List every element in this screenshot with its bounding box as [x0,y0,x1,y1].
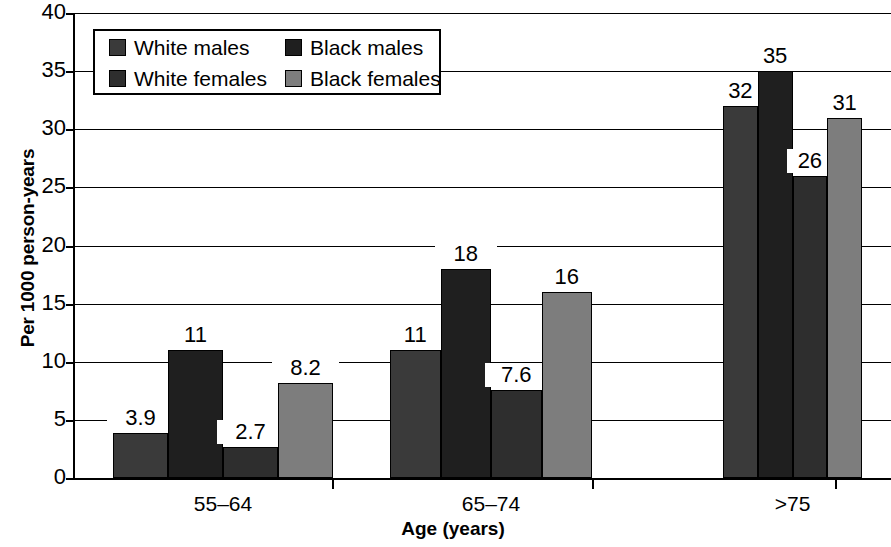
bar-value-label: 7.6 [485,363,548,387]
x-tick-mark-0 [332,478,334,489]
bar-value-label: 31 [821,91,868,115]
bar-value-label: 3.9 [107,406,174,430]
bar-value-label: 16 [536,265,599,289]
bar-6574-white-males [390,350,441,478]
x-axis-title: Age (years) [73,518,833,540]
x-tick-mark-1 [592,478,594,489]
bar-value-label: 11 [384,323,447,347]
bar-value-label: 26 [787,149,834,173]
bar-5564-white-females [223,447,278,478]
bar-5564-black-females [278,383,333,478]
legend-item-black-females: Black females [285,63,441,94]
bar-75-black-females [827,118,862,478]
legend-label-black-males: Black males [310,37,423,58]
x-tick-label-0: 55–64 [153,492,293,516]
bar-5564-white-males [113,433,168,478]
legend-swatch-white-males [109,39,126,56]
bar-value-label: 11 [162,323,229,347]
bar-6574-black-females [542,292,593,478]
bar-value-label: 18 [435,242,498,266]
bar-value-label: 2.7 [217,420,284,444]
x-axis-line [73,478,891,480]
bar-75-black-males [758,71,793,478]
x-tick-mark-2 [835,478,837,489]
y-tick-label-0: 0 [8,466,66,488]
x-tick-label-2: >75 [723,492,863,516]
x-tick-label-1: 65–74 [421,492,561,516]
legend-label-white-males: White males [134,37,250,58]
bar-5564-black-males [168,350,223,478]
legend-swatch-white-females [109,70,126,87]
legend-label-black-females: Black females [310,68,441,89]
bar-6574-white-females [491,390,542,478]
bar-value-label: 32 [717,79,764,103]
legend-label-white-females: White females [134,68,267,89]
y-axis-title: Per 1000 person-years [17,68,39,428]
legend-row-1: White males Black males [95,32,439,63]
legend-item-white-males: White males [109,32,250,63]
legend-item-white-females: White females [109,63,267,94]
bar-75-white-females [793,176,828,478]
bar-6574-black-males [441,269,492,478]
legend-swatch-black-males [285,39,302,56]
legend-row-2: White females Black females [95,63,439,94]
legend-swatch-black-females [285,70,302,87]
bar-value-label: 8.2 [272,356,339,380]
y-tick-label-40: 40 [8,1,66,23]
bar-value-label: 35 [752,44,799,68]
legend-item-black-males: Black males [285,32,423,63]
bar-chart-figure: 0510152025303540 3.9112.78.211187.616323… [0,0,891,547]
legend: White males Black males White females Bl… [93,29,441,95]
bar-75-white-males [723,106,758,478]
